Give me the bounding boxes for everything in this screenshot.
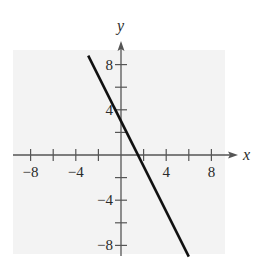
y-tick-label: −8 — [97, 237, 113, 253]
y-tick-label: 8 — [106, 57, 114, 73]
y-tick-label: −4 — [97, 192, 113, 208]
x-tick-label: 4 — [162, 164, 170, 180]
y-axis-label: y — [115, 17, 125, 35]
x-tick-label: −8 — [23, 164, 39, 180]
x-tick-label: 8 — [208, 164, 216, 180]
line-graph: −8−44884−4−8 x y — [0, 0, 266, 276]
x-tick-label: −4 — [68, 164, 84, 180]
x-axis-label: x — [242, 146, 250, 163]
